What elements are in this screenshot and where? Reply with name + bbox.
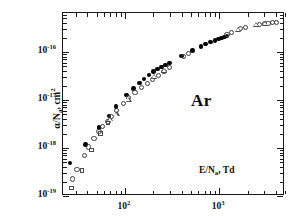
y-minor-tick-right [280,23,284,24]
y-minor-tick-right [280,18,284,19]
y-tick-mantissa: 10 [38,141,48,151]
y-minor-tick [63,153,67,154]
y-minor-tick [63,159,67,160]
x-axis-title-tail: , Td [218,165,234,175]
data-point-open-triangle [161,68,167,73]
y-minor-tick [63,77,67,78]
y-major-tick-right [277,52,283,53]
x-minor-tick-top [97,13,98,17]
y-tick-exponent: -16 [47,43,56,50]
x-minor-tick-top [76,13,77,17]
y-minor-tick [63,134,67,135]
x-minor-tick [182,191,183,195]
data-point-open-circle [167,65,172,70]
x-minor-tick [285,191,286,195]
x-minor-tick-top [116,13,117,17]
y-tick-mantissa: 10 [38,93,48,103]
data-point-open-square [69,186,73,190]
y-major-tick [63,196,69,197]
x-major-tick [125,188,126,194]
x-major-tick-top [219,13,220,19]
data-point-open-triangle [235,27,241,32]
x-minor-tick-top [276,13,277,17]
data-point-open-circle [139,85,144,90]
x-minor-tick-top [215,13,216,17]
y-minor-tick [63,54,67,55]
y-major-tick [63,100,69,101]
data-point-open-triangle [126,97,132,102]
y-tick-exponent: -17 [47,91,56,98]
x-minor-tick [110,191,111,195]
data-point-open-triangle [253,22,259,27]
y-minor-tick [63,119,67,120]
x-minor-tick-top [153,13,154,17]
y-minor-tick [63,71,67,72]
y-minor-tick [63,102,67,103]
x-tick-mantissa: 10 [212,201,222,211]
y-minor-tick [63,182,67,183]
x-tick-exponent: 2 [127,199,130,206]
data-point-open-triangle [262,21,268,26]
x-minor-tick [87,191,88,195]
data-point-filled-circle [68,161,73,166]
x-minor-tick-top [210,13,211,17]
y-minor-tick [63,111,67,112]
data-point-open-square [98,131,102,135]
y-minor-tick [63,162,67,163]
y-minor-tick-right [280,38,284,39]
data-point-open-circle [82,153,87,158]
data-point-open-triangle [151,74,157,79]
x-tick-mantissa: 10 [118,201,128,211]
x-minor-tick-top [205,13,206,17]
y-tick-exponent: -19 [47,187,56,194]
x-minor-tick-top [264,13,265,17]
y-minor-tick-right [280,71,284,72]
x-minor-tick [215,191,216,195]
x-minor-tick-top [170,13,171,17]
data-point-open-triangle [114,111,120,116]
x-minor-tick [264,191,265,195]
x-minor-tick [276,191,277,195]
y-minor-tick-right [280,66,284,67]
y-minor-tick [63,167,67,168]
y-tick-label: 10-17 [8,94,56,104]
data-point-open-circle [186,51,191,56]
y-minor-tick-right [280,63,284,64]
y-minor-tick [63,173,67,174]
x-minor-tick [198,191,199,195]
y-minor-tick-right [280,105,284,106]
y-minor-tick-right [280,167,284,168]
y-axis-title-subscript: a [56,110,64,114]
y-minor-tick-right [280,153,284,154]
x-minor-tick-top [110,13,111,17]
y-minor-tick [63,86,67,87]
y-tick-label: 10-16 [8,46,56,56]
data-point-open-circle [145,81,150,86]
x-minor-tick-top [198,13,199,17]
y-minor-tick-right [280,173,284,174]
y-tick-exponent: -18 [47,139,56,146]
y-minor-tick-right [280,150,284,151]
y-major-tick-right [277,148,283,149]
y-minor-tick-right [280,119,284,120]
x-axis-title-base: E/N [199,165,215,175]
x-minor-tick [104,191,105,195]
y-minor-tick-right [280,162,284,163]
x-minor-tick [248,191,249,195]
data-point-open-square [80,168,84,172]
data-point-open-circle [70,176,75,181]
y-minor-tick [63,59,67,60]
y-minor-tick [63,105,67,106]
y-minor-tick-right [280,59,284,60]
x-minor-tick-top [248,13,249,17]
x-minor-tick-top [285,13,286,17]
x-minor-tick-top [182,13,183,17]
x-minor-tick-top [104,13,105,17]
y-minor-tick [63,155,67,156]
plot-data-area [63,13,283,194]
y-minor-tick [63,63,67,64]
y-minor-tick [63,150,67,151]
y-major-tick-right [277,100,283,101]
data-point-open-circle [132,90,137,95]
y-minor-tick [63,57,67,58]
